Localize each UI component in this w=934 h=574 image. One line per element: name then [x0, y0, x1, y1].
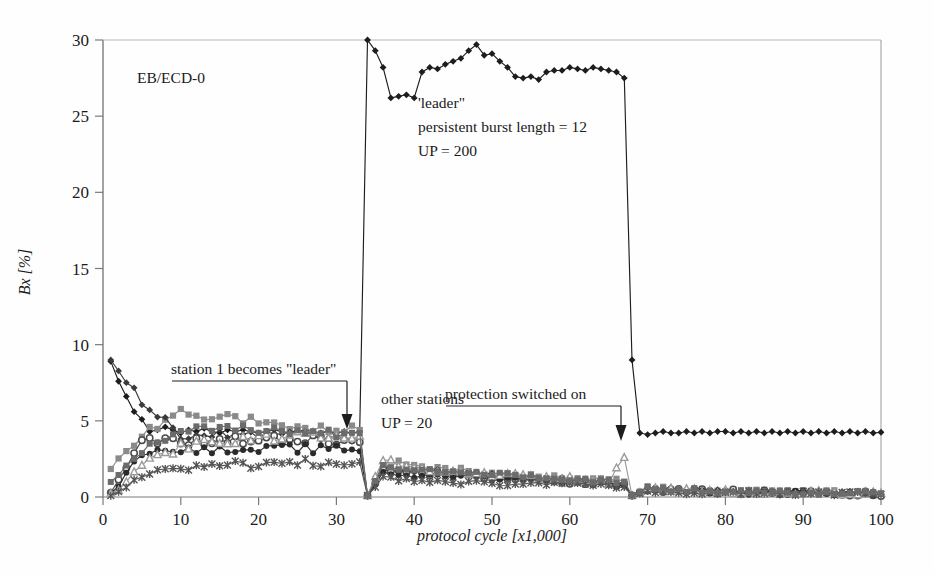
y-tick-label-5: 5 — [81, 412, 90, 431]
leader-annotation-line1: 'leader" — [418, 94, 465, 111]
leader-annotation-line3: UP = 200 — [418, 142, 477, 159]
event-arrow-station1-leader-label: station 1 becomes "leader" — [171, 360, 336, 377]
x-tick-label-20: 20 — [250, 510, 267, 529]
y-tick-label-0: 0 — [81, 488, 90, 507]
series-station-1-leader- — [107, 37, 884, 438]
y-tick-label-30: 30 — [72, 31, 89, 50]
leader-annotation-line2: persistent burst length = 12 — [418, 118, 587, 135]
x-tick-label-10: 10 — [172, 510, 189, 529]
y-axis-title: Bx [%] — [16, 249, 33, 296]
x-tick-label-100: 100 — [868, 510, 894, 529]
data-series-group — [107, 37, 884, 500]
series-station-6 — [107, 428, 884, 499]
y-tick-label-10: 10 — [72, 336, 89, 355]
chart-figure: 051015202530 0102030405060708090100 prot… — [0, 0, 934, 574]
series-set-label: EB/ECD-0 — [137, 69, 205, 86]
y-tick-label-15: 15 — [72, 260, 89, 279]
x-tick-label-0: 0 — [99, 510, 108, 529]
y-tick-label-20: 20 — [72, 183, 89, 202]
x-tick-label-30: 30 — [328, 510, 345, 529]
other-stations-annotation-line2: UP = 20 — [381, 414, 432, 431]
event-arrow-protection-on: protection switched on — [445, 385, 627, 441]
plot-area-wrapper: 051015202530 0102030405060708090100 prot… — [0, 0, 934, 574]
bx-percent-vs-protocol-cycle-chart: 051015202530 0102030405060708090100 prot… — [0, 0, 934, 574]
x-axis-ticks: 0102030405060708090100 — [99, 497, 894, 529]
event-arrow-protection-on-label: protection switched on — [445, 385, 586, 402]
x-tick-label-70: 70 — [639, 510, 656, 529]
y-axis-ticks: 051015202530 — [72, 31, 103, 507]
y-tick-label-25: 25 — [72, 107, 89, 126]
x-tick-label-90: 90 — [795, 510, 812, 529]
x-axis-title: protocol cycle [x1,000] — [416, 527, 567, 545]
x-tick-label-80: 80 — [717, 510, 734, 529]
